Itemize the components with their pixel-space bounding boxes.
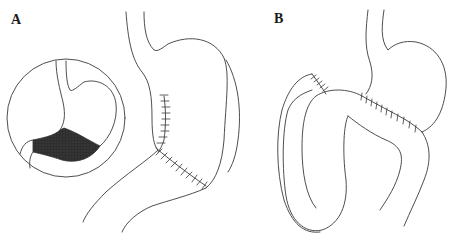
staple-ticks-afferent-end	[311, 75, 328, 91]
panel-b-drawing	[226, 10, 446, 232]
inset-stomach-diagram	[7, 59, 125, 177]
stomach-a	[83, 12, 227, 232]
staple-line-anastomosis	[362, 96, 422, 132]
panel-b-left-partial-curve	[226, 60, 240, 172]
diagram-canvas	[0, 0, 452, 237]
efferent-limb-inner	[348, 116, 401, 210]
jejunal-limb-inner	[283, 90, 348, 231]
efferent-limb-outer	[404, 132, 429, 226]
staple-line-vertical	[158, 96, 166, 152]
panel-a-drawing	[7, 12, 227, 232]
stomach-b-esophagus-left	[366, 10, 372, 94]
staple-line-diagonal	[156, 148, 206, 186]
stomach-a-lesser-wall	[83, 12, 158, 222]
staple-ticks-anastomosis	[361, 93, 416, 132]
staple-ticks-diagonal	[156, 149, 207, 189]
stomach-a-greater-wall	[144, 12, 227, 188]
jejunal-limb-outer-top	[302, 90, 362, 208]
stomach-a-outflow	[122, 188, 206, 232]
staple-ticks-vertical	[157, 95, 170, 143]
inset-lesser-curve	[56, 61, 64, 130]
inset-duodenum-upper	[20, 140, 33, 154]
inset-shaded-region	[33, 128, 100, 161]
